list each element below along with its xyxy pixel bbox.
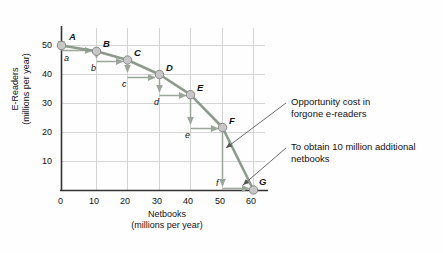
point-G	[249, 186, 257, 194]
step-label-a: a	[64, 53, 69, 63]
point-label-E: E	[197, 82, 203, 93]
point-label-A: A	[69, 31, 76, 42]
point-D	[155, 70, 163, 78]
step-label-c: c	[122, 79, 127, 89]
callout-additional-netbooks: To obtain 10 million additional netbooks	[291, 141, 416, 164]
x-axis-title-units: (millions per year)	[112, 220, 222, 231]
y-axis-title: E-Readers (millions per year)	[10, 49, 32, 129]
step-label-f: f	[216, 178, 219, 188]
ppf-markers	[57, 41, 257, 194]
callout-additional-netbooks-line2: netbooks	[291, 153, 416, 165]
y-tick-50: 50	[42, 40, 52, 50]
step-label-e: e	[185, 130, 190, 140]
callout-opportunity-cost: Opportunity cost in forgone e-readers	[291, 96, 370, 119]
x-tick-50: 50	[215, 196, 225, 206]
point-label-D: D	[166, 62, 173, 73]
step-label-d: d	[154, 97, 159, 107]
y-tick-20: 20	[42, 127, 52, 137]
x-axis-title-main: Netbooks	[112, 209, 222, 220]
x-tick-10: 10	[89, 196, 99, 206]
callout-additional-netbooks-line1: To obtain 10 million additional	[291, 141, 416, 153]
x-tick-30: 30	[152, 196, 162, 206]
point-B	[92, 47, 100, 55]
step-label-b: b	[91, 63, 96, 73]
point-E	[186, 91, 194, 99]
callout-opportunity-cost-line1: Opportunity cost in	[291, 96, 370, 108]
y-axis-title-units: (millions per year)	[21, 49, 32, 129]
point-F	[218, 123, 226, 131]
x-axis-title: Netbooks (millions per year)	[112, 209, 222, 231]
step-arrows	[62, 45, 250, 189]
callout-leaders	[226, 103, 286, 185]
x-tick-60: 60	[246, 196, 256, 206]
leader-opportunity-cost	[226, 103, 286, 148]
x-tick-0: 0	[58, 196, 63, 206]
point-label-C: C	[134, 47, 141, 58]
grid-vertical	[97, 28, 254, 190]
point-label-B: B	[103, 38, 110, 49]
point-A	[57, 41, 65, 49]
chart-figure: 50 40 30 20 10 0 10 20 30 40 50 60 E-Rea…	[0, 0, 443, 253]
point-label-F: F	[229, 115, 235, 126]
x-tick-40: 40	[183, 196, 193, 206]
y-tick-10: 10	[42, 156, 52, 166]
y-axis-title-main: E-Readers	[10, 49, 21, 129]
point-C	[123, 56, 131, 64]
x-tick-20: 20	[120, 196, 130, 206]
callout-opportunity-cost-line2: forgone e-readers	[291, 108, 370, 120]
point-label-G: G	[259, 176, 266, 187]
y-tick-40: 40	[42, 69, 52, 79]
y-tick-30: 30	[42, 98, 52, 108]
